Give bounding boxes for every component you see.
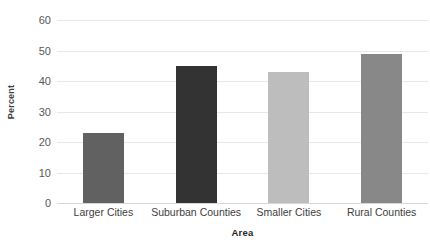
x-axis-tick-label: Rural Counties: [335, 205, 428, 219]
y-axis-tick-label: 40: [5, 76, 51, 87]
gridline: [57, 203, 428, 204]
x-axis-tick-label: Suburban Counties: [150, 205, 243, 219]
y-axis-tick-label: 30: [5, 106, 51, 117]
bar: [268, 72, 309, 203]
y-axis-tick-label: 10: [5, 167, 51, 178]
bar: [176, 66, 217, 203]
x-axis-title: Area: [57, 227, 428, 238]
y-axis-tick-label: 50: [5, 45, 51, 56]
x-axis-tick-label: Larger Cities: [57, 205, 150, 219]
bar-chart: Percent 0102030405060 Larger CitiesSubur…: [0, 0, 430, 246]
gridline: [57, 51, 428, 52]
y-axis-tick-label: 20: [5, 137, 51, 148]
gridline: [57, 20, 428, 21]
y-axis-tick-labels: 0102030405060: [0, 20, 51, 203]
plot-area: [57, 20, 428, 203]
x-axis-tick-label: Smaller Cities: [243, 205, 336, 219]
x-axis-tick-labels: Larger CitiesSuburban CountiesSmaller Ci…: [57, 205, 428, 221]
y-axis-tick-label: 60: [5, 15, 51, 26]
bar: [361, 54, 402, 203]
bar: [83, 133, 124, 203]
y-axis-tick-label: 0: [5, 198, 51, 209]
